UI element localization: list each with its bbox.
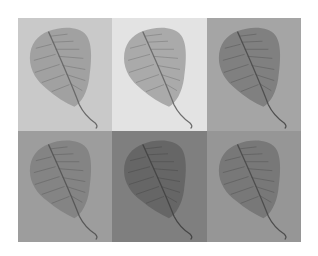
leaf-panel <box>207 131 301 242</box>
leaf-panel <box>18 18 112 131</box>
leaf-image <box>207 18 301 131</box>
leaf-image <box>112 18 207 131</box>
leaf-image <box>18 131 112 242</box>
leaf-panel <box>18 131 112 242</box>
leaf-image-grid <box>18 18 301 242</box>
leaf-panel <box>112 18 207 131</box>
leaf-panel <box>112 131 207 242</box>
leaf-image <box>18 18 112 131</box>
leaf-panel <box>207 18 301 131</box>
leaf-image <box>112 131 207 242</box>
leaf-image <box>207 131 301 242</box>
